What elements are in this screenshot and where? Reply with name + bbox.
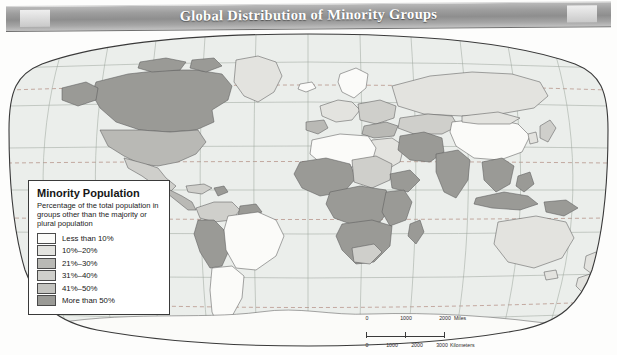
map-legend: Minority Population Percentage of the to… [28, 180, 170, 315]
scale-bar-axis-miles [362, 328, 474, 340]
legend-item-4: 41%–50% [37, 283, 162, 294]
scale-tick-m1 [405, 332, 406, 338]
legend-title: Minority Population [37, 187, 162, 199]
legend-swatch-2 [37, 258, 56, 269]
scale-km-unit: Kilometers [450, 342, 475, 348]
region-tasmania [544, 270, 558, 280]
legend-swatch-5 [37, 295, 56, 306]
legend-label-0: Less than 10% [62, 234, 114, 243]
map-page: Global Distribution of Minority Groups [0, 0, 617, 355]
scale-miles-tick-1: 1000 [400, 315, 412, 321]
scale-miles-unit: Miles [454, 315, 466, 321]
scale-miles-tick-2: 2000 [439, 315, 451, 321]
legend-item-0: Less than 10% [37, 233, 162, 244]
scale-bar-kilometers: 0 1000 2000 3000 Kilometers [362, 340, 474, 352]
scale-km-tick-3: 3000 [436, 342, 448, 348]
legend-item-1: 10%–20% [37, 245, 162, 256]
legend-swatch-1 [37, 245, 56, 256]
scale-miles-tick-0: 0 [366, 315, 369, 321]
legend-label-1: 10%–20% [62, 246, 98, 255]
scale-bar: 0 1000 2000 Miles 0 1000 2000 3000 Kilom… [362, 316, 474, 344]
legend-label-5: More than 50% [62, 296, 115, 305]
legend-item-2: 21%–30% [37, 258, 162, 269]
legend-swatch-0 [37, 233, 56, 244]
scale-km-tick-0: 0 [366, 342, 369, 348]
page-title: Global Distribution of Minority Groups [6, 4, 611, 26]
region-korea [528, 132, 538, 144]
legend-item-5: More than 50% [37, 295, 162, 306]
legend-item-3: 31%–40% [37, 270, 162, 281]
legend-label-2: 21%–30% [62, 259, 98, 268]
scale-bar-miles: 0 1000 2000 Miles [362, 316, 474, 328]
legend-label-3: 31%–40% [62, 271, 98, 280]
legend-label-4: 41%–50% [62, 284, 98, 293]
legend-swatch-3 [37, 270, 56, 281]
scale-km-tick-2: 2000 [411, 342, 423, 348]
scale-km-tick-1: 1000 [386, 342, 398, 348]
legend-subtitle: Percentage of the total population in gr… [37, 201, 162, 229]
scale-tick-m0 [366, 332, 367, 338]
legend-swatch-4 [37, 283, 56, 294]
scale-tick-m2 [444, 332, 445, 338]
title-banner: Global Distribution of Minority Groups [6, 1, 611, 32]
